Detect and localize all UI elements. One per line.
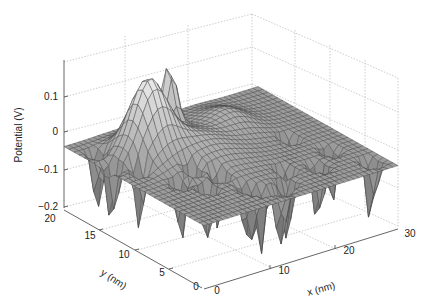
y-tick: 10 — [118, 249, 130, 260]
z-tick: −0.2 — [38, 201, 58, 212]
x-tick: 20 — [343, 245, 355, 256]
z-tick: 0.1 — [44, 91, 58, 102]
x-tick: 0 — [214, 285, 220, 296]
x-axis-label: x (nm) — [306, 280, 336, 298]
y-tick: 20 — [44, 213, 56, 224]
y-tick: 0 — [193, 281, 199, 292]
y-tick: 15 — [84, 230, 96, 241]
surface-plot: 0.1 0 −0.1 −0.2 20 15 10 5 0 0 10 20 30 … — [0, 0, 430, 306]
z-axis-label: Potential (V) — [13, 107, 24, 162]
z-tick: 0 — [52, 126, 58, 137]
y-axis-label: y (nm) — [99, 267, 129, 292]
z-tick-labels: 0.1 0 −0.1 −0.2 — [38, 91, 58, 212]
y-tick: 5 — [159, 267, 165, 278]
x-tick: 30 — [404, 228, 416, 239]
z-tick: −0.1 — [38, 164, 58, 175]
potential-surface — [64, 69, 398, 254]
x-tick: 10 — [278, 265, 290, 276]
